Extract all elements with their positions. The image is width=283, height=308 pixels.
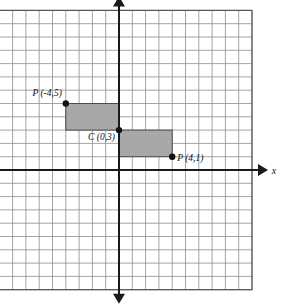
upper-rectangle xyxy=(66,104,119,131)
point-marker-c xyxy=(116,127,122,133)
point-marker-p2 xyxy=(169,154,175,160)
point-label-c: C (0,3) xyxy=(88,132,115,143)
point-label-p1: P (-4,5) xyxy=(31,88,61,99)
point-marker-p1 xyxy=(63,100,69,106)
x-axis-label: x xyxy=(271,165,277,176)
coordinate-plane-figure: P (-4,5)C (0,3)P (4,1) x y xyxy=(0,0,283,308)
figure-canvas: P (-4,5)C (0,3)P (4,1) x y xyxy=(0,0,283,308)
point-label-p2: P (4,1) xyxy=(176,153,203,164)
lower-rectangle xyxy=(119,130,172,157)
